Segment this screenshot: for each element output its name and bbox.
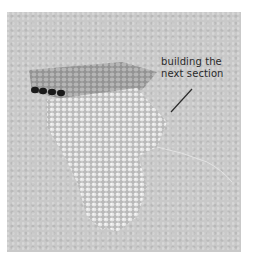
- beadwork-illustration: [7, 12, 241, 252]
- leader-line: [171, 89, 192, 112]
- thread: [157, 147, 232, 182]
- annotation-label: building the next section: [161, 56, 224, 80]
- annotation-line-1: building the: [161, 56, 224, 68]
- annotation-line-2: next section: [161, 68, 224, 80]
- beadwork-photo: [7, 12, 241, 252]
